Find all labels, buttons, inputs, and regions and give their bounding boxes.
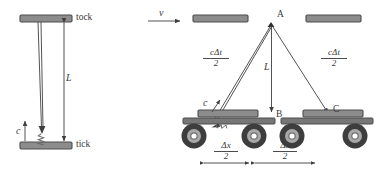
diagonal-left-numerator: cΔt bbox=[203, 48, 229, 59]
right-top-plate-left bbox=[193, 15, 248, 22]
left-top-plate bbox=[20, 15, 72, 22]
figure-canvas bbox=[0, 0, 391, 176]
right-clock-group bbox=[148, 15, 373, 163]
left-bottom-plate bbox=[20, 142, 72, 149]
ray-down-diagonal bbox=[273, 27, 328, 113]
diagonal-right-numerator: cΔt bbox=[321, 48, 347, 59]
point-a-label: A bbox=[277, 10, 284, 20]
diagonal-right-denominator: 2 bbox=[321, 59, 347, 69]
displacement-left-label: Δx 2 bbox=[214, 141, 238, 162]
displacement-right-numerator: Δx bbox=[273, 141, 297, 152]
diagonal-right-length-label: cΔt 2 bbox=[321, 48, 347, 69]
right-top-plate-right bbox=[306, 15, 361, 22]
displacement-right-label: Δx 2 bbox=[273, 141, 297, 162]
displacement-left-denominator: 2 bbox=[214, 152, 238, 162]
velocity-label: v bbox=[159, 8, 163, 18]
cart-right-body bbox=[281, 118, 373, 124]
light-clock-figure: tock tick L c v A B C L c cΔt 2 cΔt 2 Δx… bbox=[0, 0, 391, 176]
left-speed-label: c bbox=[16, 126, 20, 136]
left-bottom-plate-label: tick bbox=[76, 140, 90, 150]
left-clock-group bbox=[20, 15, 72, 149]
left-ray-down-arrowhead bbox=[39, 126, 46, 134]
right-speed-label: c bbox=[203, 98, 207, 108]
left-length-label: L bbox=[66, 73, 72, 83]
displacement-left-numerator: Δx bbox=[214, 141, 238, 152]
diagonal-left-denominator: 2 bbox=[203, 59, 229, 69]
ray-up-diagonal-b bbox=[217, 26, 273, 121]
displacement-right-denominator: 2 bbox=[273, 152, 297, 162]
left-top-plate-label: tock bbox=[76, 13, 92, 23]
apex-marker bbox=[268, 22, 275, 27]
right-length-label: L bbox=[264, 62, 270, 72]
cart-left-body bbox=[183, 118, 275, 124]
point-b-label: B bbox=[276, 110, 282, 120]
cart-left-mirror bbox=[198, 110, 258, 117]
point-c-label: C bbox=[333, 105, 339, 115]
diagonal-left-length-label: cΔt 2 bbox=[203, 48, 229, 69]
ray-up-diagonal bbox=[213, 26, 271, 122]
